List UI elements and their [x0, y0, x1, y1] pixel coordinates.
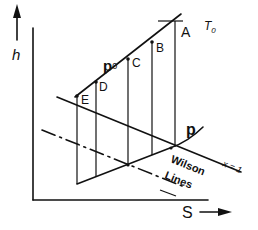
point-d-marker [94, 80, 98, 84]
intersection-marker [126, 163, 129, 166]
h-s-diagram: h S A B C D E T0 p0 p x = 1 Wilson Lines [0, 0, 258, 230]
point-b-marker [150, 40, 154, 44]
point-e-marker [75, 94, 79, 98]
wilson-line [42, 130, 182, 186]
p0-label: p0 [103, 57, 117, 74]
point-c-marker [126, 57, 130, 61]
wilson-underline [160, 190, 176, 196]
saturation-line-x1 [57, 97, 241, 172]
t0-label: T0 [204, 19, 216, 35]
x1-label: x = 1 [220, 158, 243, 175]
h-arrow-icon [13, 4, 21, 40]
point-a-label: A [181, 24, 191, 40]
s-arrow-icon [200, 208, 232, 216]
point-c-label: C [132, 56, 141, 70]
x-axis-label: S [182, 204, 193, 221]
p-label: p [186, 121, 196, 138]
y-axis-label: h [12, 46, 20, 63]
point-d-label: D [99, 80, 108, 94]
point-b-label: B [156, 41, 164, 55]
intersection-marker [169, 146, 172, 149]
point-e-label: E [81, 93, 89, 107]
